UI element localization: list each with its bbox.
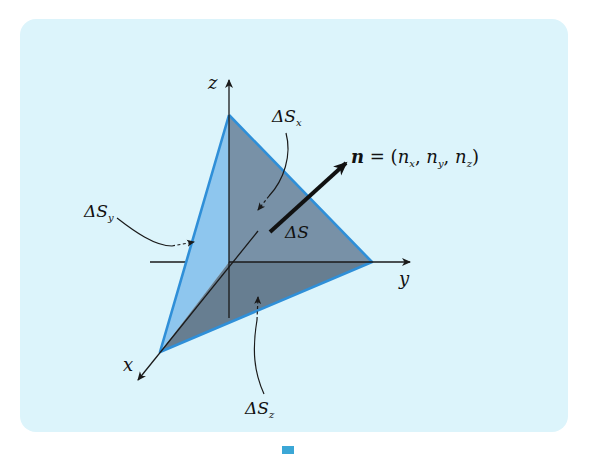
leader-delta-sz [254, 320, 264, 394]
label-delta-sx: ΔSx [272, 108, 302, 125]
label-delta-sy: ΔSy [84, 203, 114, 220]
label-delta-s: ΔS [285, 224, 309, 241]
label-delta-sz: ΔSz [245, 400, 274, 417]
leader-delta-sy [117, 218, 172, 246]
axis-label-z: z [208, 74, 217, 92]
axis-label-y: y [399, 270, 409, 288]
page-marker [282, 446, 294, 454]
label-normal-vector: n = (nx, ny, nz) [351, 148, 479, 166]
axis-label-x: x [123, 356, 133, 374]
